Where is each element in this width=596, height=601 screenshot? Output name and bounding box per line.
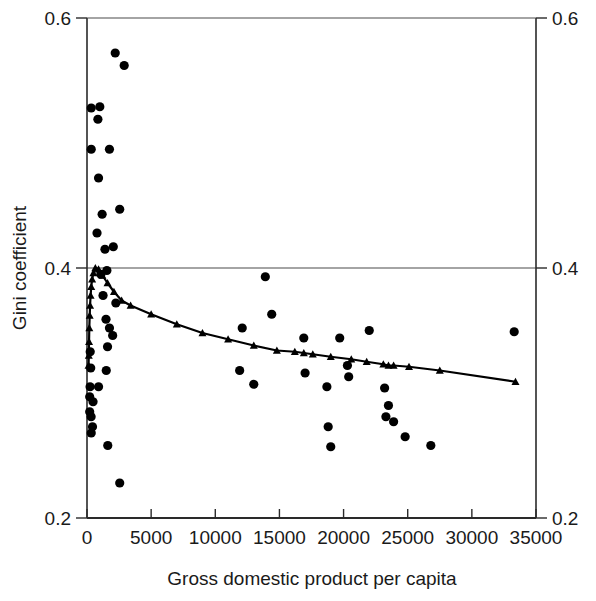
scatter-point [115,205,124,214]
scatter-point [111,298,120,307]
y-axis-title: Gini coefficient [9,205,30,330]
x-axis-title: Gross domestic product per capita [167,568,457,589]
scatter-point [238,323,247,332]
fitted-curve-layer [85,264,520,385]
x-tick-label: 15000 [253,527,306,548]
x-tick-label: 5000 [130,527,172,548]
y-tick-label-right: 0.4 [552,258,579,279]
scatter-point [109,242,118,251]
scatter-point [249,380,258,389]
scatter-point [88,397,97,406]
scatter-point [102,366,111,375]
scatter-point [103,441,112,450]
scatter-point [87,412,96,421]
scatter-point [86,363,95,372]
scatter-point [108,331,117,340]
x-tick-label: 20000 [317,527,370,548]
y-tick-label-right: 0.6 [552,8,578,29]
chart-figure: 050001000015000200002500030000350000.20.… [0,0,596,601]
scatter-point [510,327,519,336]
scatter-point [94,382,103,391]
scatter-point [322,382,331,391]
scatter-point [105,145,114,154]
scatter-point [103,342,112,351]
curve-triangle-marker [88,275,96,282]
x-tick-label: 25000 [381,527,434,548]
scatter-point [115,478,124,487]
y-tick-label-left: 0.6 [45,8,71,29]
x-tick-label: 10000 [189,527,242,548]
scatter-point [401,432,410,441]
scatter-point [324,422,333,431]
scatter-point [87,103,96,112]
scatter-point [335,333,344,342]
scatter-point [111,48,120,57]
scatter-point [120,61,129,70]
scatter-point [381,412,390,421]
scatter-point [326,442,335,451]
scatter-plot: 050001000015000200002500030000350000.20.… [0,0,596,601]
y-tick-label-left: 0.4 [45,258,72,279]
curve-triangle-marker [87,283,95,290]
scatter-point [389,417,398,426]
scatter-point [94,173,103,182]
scatter-point [299,333,308,342]
scatter-point [96,270,105,279]
scatter-point [300,368,309,377]
scatter-point [380,383,389,392]
scatter-point [344,372,353,381]
scatter-point [98,210,107,219]
scatter-point [261,272,270,281]
scatter-point [92,228,101,237]
y-tick-label-left: 0.2 [45,508,71,529]
scatter-point [95,102,104,111]
scatter-point [101,315,110,324]
scatter-point [426,441,435,450]
scatter-point [100,245,109,254]
scatter-point [98,291,107,300]
x-tick-label: 0 [82,527,93,548]
scatter-point [235,366,244,375]
scatter-point [93,115,102,124]
tick-labels-layer: 050001000015000200002500030000350000.20.… [45,8,579,548]
x-tick-label: 35000 [510,527,563,548]
scatter-point [87,145,96,154]
y-tick-label-right: 0.2 [552,508,578,529]
fitted-curve-line [89,268,516,382]
scatter-point [384,401,393,410]
scatter-point [86,347,95,356]
scatter-point [85,382,94,391]
x-tick-label: 30000 [445,527,498,548]
scatter-point [343,361,352,370]
scatter-point [87,428,96,437]
scatter-point [365,326,374,335]
scatter-point [267,310,276,319]
